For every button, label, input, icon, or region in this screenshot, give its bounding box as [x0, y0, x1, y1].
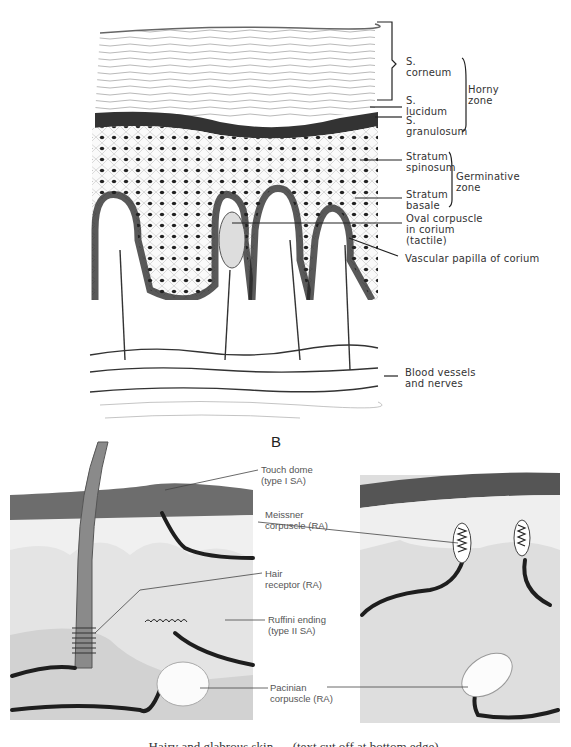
skin-layers-illustration	[0, 0, 571, 430]
label-stratum-spinosum: Stratum spinosum	[406, 151, 456, 173]
label-oval-corpuscle: Oval corpuscle in corium (tactile)	[406, 213, 483, 246]
label-stratum-basale: Stratum basale	[406, 189, 448, 211]
label-blood-vessels: Blood vessels and nerves	[405, 367, 476, 389]
label-s-granulosum: S. granulosum	[406, 115, 467, 137]
label-germinative-zone: Germinative zone	[456, 171, 520, 193]
panel-a-skin-section: S. corneum Horny zone S. lucidum S. gran…	[0, 0, 571, 430]
label-horny-zone: Horny zone	[468, 84, 499, 106]
label-hair-receptor: Hair receptor (RA)	[265, 568, 322, 590]
label-ruffini-ending: Ruffini ending (type II SA)	[268, 614, 326, 636]
figure-caption-cut-off: … Hairy and glabrous skin … (text cut of…	[0, 739, 571, 747]
panel-b-hairy-skin: Touch dome (type I SA) Meissner corpuscl…	[0, 440, 571, 730]
label-vascular-papilla: Vascular papilla of corium	[405, 253, 540, 264]
label-s-corneum: S. corneum	[406, 56, 452, 78]
label-touch-dome: Touch dome (type I SA)	[261, 464, 313, 486]
label-pacinian-corpuscle: Pacinian corpuscle (RA)	[270, 682, 333, 704]
label-meissner-corpuscle: Meissner corpuscle (RA)	[265, 509, 328, 531]
label-s-lucidum: S. lucidum	[406, 95, 447, 117]
